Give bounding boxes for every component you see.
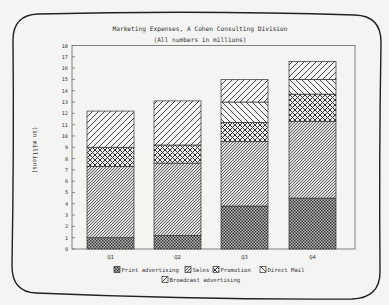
y-tick-label: 17 [62, 54, 68, 60]
legend-item: Sales [185, 267, 209, 274]
y-tick-label: 18 [62, 43, 68, 49]
y-tick-label: 0 [65, 246, 68, 252]
y-tick-label: 7 [65, 167, 68, 173]
x-tick-label: Q4 [309, 254, 316, 260]
y-axis-label: (in millions) [32, 127, 39, 174]
y-tick-label: 9 [65, 144, 68, 150]
legend-swatch [162, 277, 168, 283]
y-tick-label: 10 [62, 133, 68, 139]
bar-segment [154, 163, 201, 235]
legend-label: Sales [193, 267, 210, 273]
y-tick-label: 4 [65, 201, 68, 207]
y-tick-label: 6 [65, 178, 68, 184]
legend-swatch [185, 267, 191, 273]
bar-segment [87, 166, 134, 237]
legend-item: Direct Mail [260, 267, 305, 274]
bar-segment [221, 79, 268, 102]
bar-segment [154, 145, 201, 163]
x-tick-label: Q3 [241, 254, 248, 260]
bar-segment [289, 61, 336, 79]
x-tick-label: Q2 [174, 254, 181, 260]
y-tick-label: 2 [65, 223, 68, 229]
legend-item: Print advertising [114, 267, 179, 275]
bar-segment [221, 122, 268, 141]
chart-title: Marketing Expenses, A Cohen Consulting D… [112, 25, 287, 33]
legend-swatch [114, 267, 120, 273]
bar-segment [87, 147, 134, 166]
bars [87, 61, 336, 249]
y-tick-label: 3 [65, 212, 68, 218]
y-tick-label: 14 [62, 88, 68, 94]
chart-subtitle: (All numbers in millions) [153, 36, 246, 43]
x-axis: Q1Q2Q3Q4 [107, 254, 316, 260]
x-tick-label: Q1 [107, 254, 114, 260]
y-tick-label: 11 [62, 122, 68, 128]
legend-swatch [213, 267, 219, 273]
y-tick-label: 16 [62, 65, 68, 71]
y-tick-label: 15 [62, 76, 68, 82]
legend: Print advertisingSalesPromotionDirect Ma… [114, 267, 305, 285]
bar-segment [221, 206, 268, 249]
bar-segment [289, 79, 336, 94]
y-tick-label: 12 [62, 110, 68, 116]
legend-swatch [260, 267, 266, 273]
bar-segment [221, 102, 268, 122]
bar-q1 [87, 111, 134, 249]
bar-segment [154, 101, 201, 145]
legend-label: Promotion [221, 267, 251, 273]
bar-segment [289, 94, 336, 121]
bar-segment [289, 121, 336, 198]
legend-label: Direct Mail [268, 267, 305, 273]
bar-segment [87, 111, 134, 147]
legend-item: Broadcast advertising [162, 277, 240, 285]
y-tick-label: 13 [62, 99, 68, 105]
bar-q4 [289, 61, 336, 249]
y-axis: 0123456789101112131415161718 [62, 43, 75, 253]
bar-segment [87, 238, 134, 249]
legend-item: Promotion [213, 267, 251, 274]
bar-segment [154, 235, 201, 249]
legend-label: Broadcast advertising [170, 277, 241, 284]
chart: Marketing Expenses, A Cohen Consulting D… [0, 0, 389, 305]
bar-segment [289, 198, 336, 249]
bar-segment [221, 142, 268, 206]
y-tick-label: 5 [65, 189, 68, 195]
bar-q2 [154, 101, 201, 249]
legend-label: Print advertising [122, 267, 179, 274]
y-tick-label: 8 [65, 156, 68, 162]
bar-q3 [221, 79, 268, 249]
y-tick-label: 1 [65, 235, 68, 241]
